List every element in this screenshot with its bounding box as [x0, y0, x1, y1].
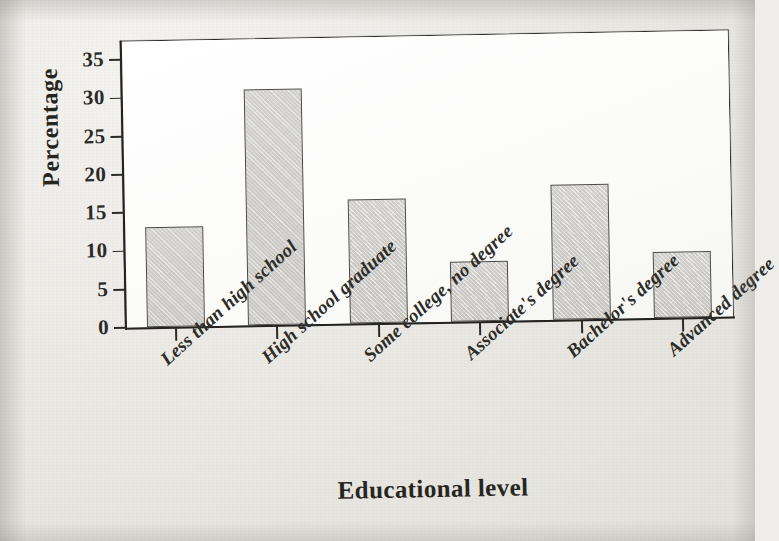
y-axis-tick-label: 20	[60, 164, 106, 186]
y-axis-tick	[111, 174, 123, 176]
y-axis-tick-label: 0	[63, 317, 109, 339]
y-axis-tick	[113, 289, 125, 291]
y-axis-tick	[109, 59, 121, 61]
y-axis-tick-label: 30	[59, 87, 105, 109]
y-axis-tick	[110, 136, 122, 138]
y-axis-title: Percentage	[35, 12, 66, 242]
y-axis-tick-label: 35	[58, 49, 104, 71]
y-axis-tick-label: 15	[61, 202, 107, 224]
y-axis-tick-label: 25	[59, 126, 105, 148]
y-axis-tick	[114, 327, 126, 329]
y-axis-tick	[112, 212, 124, 214]
x-axis-title: Educational level	[128, 469, 738, 508]
y-axis-tick-label: 5	[62, 279, 108, 301]
bar-chart-figure: 05101520253035 Less than high schoolHigh…	[0, 0, 760, 541]
y-axis-tick-label: 10	[61, 240, 107, 262]
bar	[145, 226, 205, 327]
bar	[550, 184, 610, 320]
y-axis-tick	[110, 97, 122, 99]
y-axis-tick	[113, 250, 125, 252]
